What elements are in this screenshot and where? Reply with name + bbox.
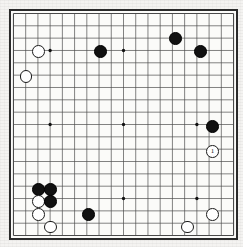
white-stone[interactable]: [206, 208, 219, 221]
white-stone[interactable]: [44, 221, 57, 234]
black-stone[interactable]: [32, 183, 45, 196]
black-stone[interactable]: [169, 32, 182, 45]
go-board-container: 1: [0, 0, 243, 247]
move-number-label: 1: [207, 146, 218, 157]
white-stone[interactable]: [181, 221, 194, 234]
go-board[interactable]: 1: [9, 9, 238, 240]
white-stone[interactable]: [20, 70, 33, 83]
black-stone[interactable]: [44, 183, 57, 196]
stone-layer: 1: [11, 11, 236, 238]
black-stone[interactable]: [194, 45, 207, 58]
white-stone[interactable]: 1: [206, 145, 219, 158]
black-stone[interactable]: [44, 195, 57, 208]
black-stone[interactable]: [206, 120, 219, 133]
black-stone[interactable]: [94, 45, 107, 58]
black-stone[interactable]: [82, 208, 95, 221]
white-stone[interactable]: [32, 45, 45, 58]
white-stone[interactable]: [32, 195, 45, 208]
white-stone[interactable]: [32, 208, 45, 221]
